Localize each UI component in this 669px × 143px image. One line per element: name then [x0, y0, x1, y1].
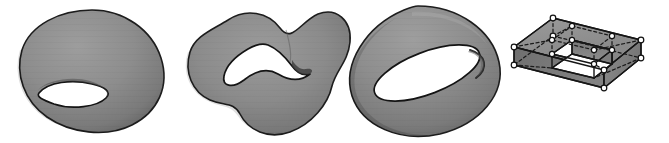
- frame-vertex: [511, 62, 517, 68]
- frame-vertex: [550, 15, 556, 21]
- frame-vertex: [549, 37, 554, 42]
- frame-vertex: [638, 37, 644, 43]
- frame-vertex: [569, 23, 574, 28]
- frame-vertex: [609, 47, 614, 52]
- frame-vertex: [591, 61, 596, 66]
- frame-vertex: [638, 55, 644, 61]
- figure-canvas: [0, 0, 669, 143]
- frame-vertex: [511, 44, 517, 50]
- frame-vertex: [601, 67, 607, 73]
- figure-container: Four homeomorphic genus-one surfaces: [0, 0, 669, 143]
- frame-vertex: [549, 51, 554, 56]
- frame-vertex: [591, 47, 596, 52]
- frame-vertex: [569, 37, 574, 42]
- frame-vertex: [601, 85, 607, 91]
- frame-vertex: [609, 33, 614, 38]
